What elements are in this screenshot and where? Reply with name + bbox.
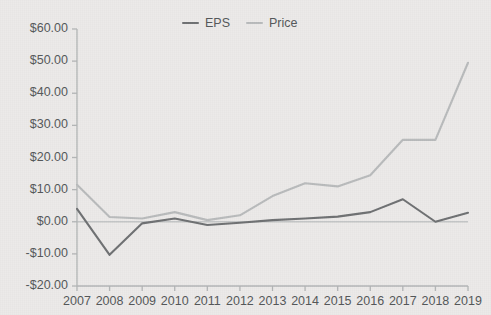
chart-legend: EPS Price: [182, 16, 298, 30]
y-axis-label: $10.00: [30, 182, 68, 196]
plot-area: [0, 0, 491, 315]
y-axis-label: -$10.00: [26, 246, 68, 260]
legend-swatch-price: [246, 22, 263, 25]
y-axis-label: $30.00: [30, 117, 68, 131]
series-line-price: [77, 63, 468, 220]
y-axis-label: $20.00: [30, 150, 68, 164]
series-line-eps: [77, 199, 468, 255]
legend-item-eps[interactable]: EPS: [182, 16, 230, 30]
y-axis-label: $0.00: [37, 214, 68, 228]
y-axis-label: $50.00: [30, 53, 68, 67]
y-axis-label: $40.00: [30, 85, 68, 99]
x-axis-label: 2019: [443, 294, 491, 308]
legend-swatch-eps: [182, 22, 199, 25]
legend-label-price: Price: [269, 16, 297, 30]
legend-item-price[interactable]: Price: [246, 16, 297, 30]
y-axis-label: -$20.00: [26, 278, 68, 292]
legend-label-eps: EPS: [205, 16, 230, 30]
line-chart: EPS Price $60.00$50.00$40.00$30.00$20.00…: [0, 0, 491, 315]
y-axis-label: $60.00: [30, 21, 68, 35]
